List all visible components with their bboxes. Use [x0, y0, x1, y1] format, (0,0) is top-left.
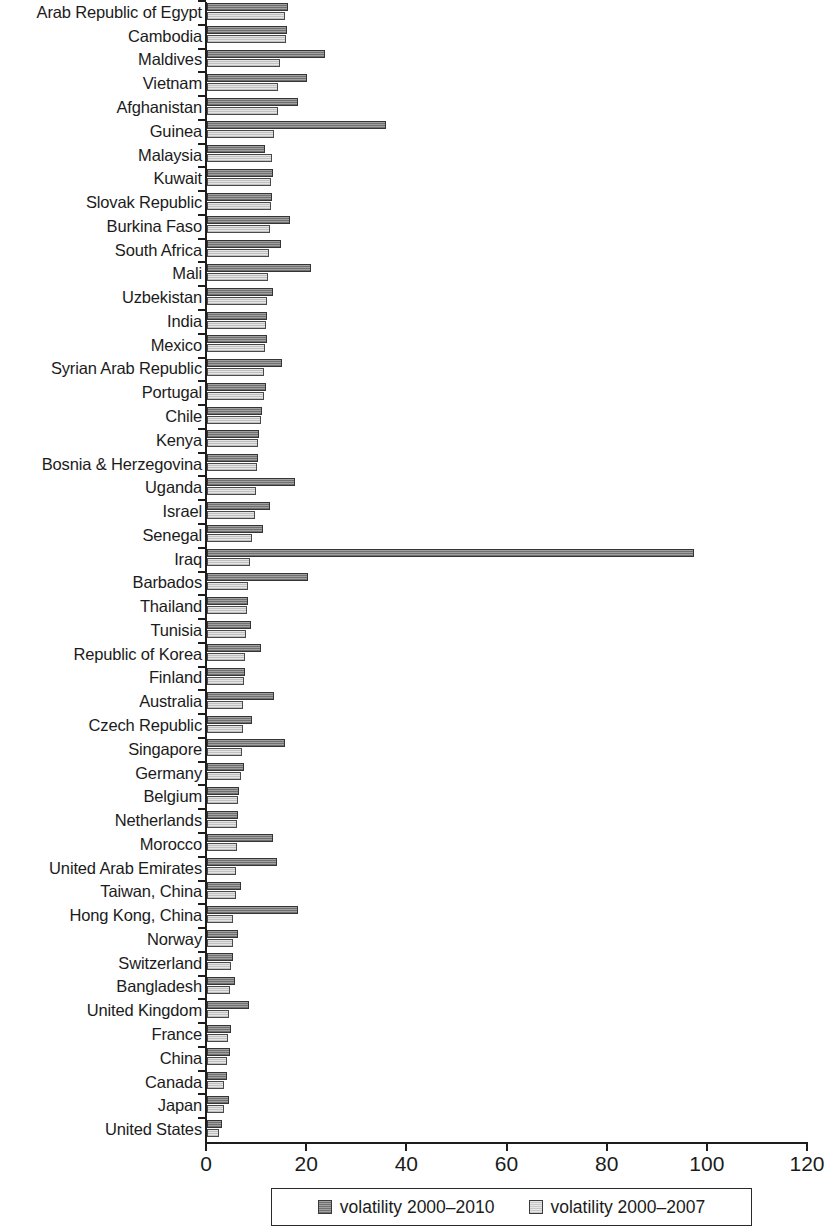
y-axis-tick — [198, 309, 206, 311]
bar-group — [207, 383, 817, 403]
legend-item-volatility-2000-2007[interactable]: volatility 2000–2007 — [529, 1198, 706, 1216]
bar-volatility-2000-2010 — [207, 121, 386, 129]
category-label: Malaysia — [138, 147, 202, 164]
bar-volatility-2000-2010 — [207, 264, 311, 272]
bar-volatility-2000-2010 — [207, 312, 267, 320]
x-axis-tick — [305, 1142, 307, 1151]
table-row: Burkina Faso — [0, 215, 821, 239]
category-label: Canada — [145, 1074, 202, 1091]
y-axis-tick — [198, 214, 206, 216]
bar-volatility-2000-2010 — [207, 3, 288, 11]
bar-group — [207, 1120, 817, 1140]
y-axis-tick — [198, 523, 206, 525]
bar-group — [207, 811, 817, 831]
bar-group — [207, 739, 817, 759]
bar-volatility-2000-2010 — [207, 858, 277, 866]
legend-item-volatility-2000-2010[interactable]: volatility 2000–2010 — [318, 1198, 495, 1216]
y-axis-tick — [198, 666, 206, 668]
bar-group — [207, 1001, 817, 1021]
table-row: United States — [0, 1118, 821, 1142]
bar-volatility-2000-2007 — [207, 130, 274, 138]
bar-volatility-2000-2010 — [207, 573, 308, 581]
table-row: Belgium — [0, 785, 821, 809]
bar-volatility-2000-2007 — [207, 83, 278, 91]
category-label: Israel — [163, 503, 202, 520]
category-label: Netherlands — [115, 812, 202, 829]
category-label: United States — [105, 1121, 202, 1138]
category-label: Japan — [158, 1097, 202, 1114]
legend-label: volatility 2000–2007 — [551, 1198, 706, 1216]
y-axis-tick — [198, 1022, 206, 1024]
y-axis-tick — [198, 1093, 206, 1095]
bar-volatility-2000-2007 — [207, 820, 237, 828]
bar-volatility-2000-2010 — [207, 811, 238, 819]
table-row: France — [0, 1023, 821, 1047]
bar-volatility-2000-2007 — [207, 701, 243, 709]
bar-group — [207, 121, 817, 141]
bar-group — [207, 407, 817, 427]
bar-volatility-2000-2010 — [207, 383, 266, 391]
bar-group — [207, 216, 817, 236]
y-axis-tick — [198, 689, 206, 691]
bar-volatility-2000-2007 — [207, 511, 255, 519]
bar-group — [207, 1048, 817, 1068]
category-label: Arab Republic of Egypt — [37, 4, 202, 21]
bar-group — [207, 1072, 817, 1092]
bar-volatility-2000-2010 — [207, 525, 263, 533]
table-row: Canada — [0, 1071, 821, 1095]
y-axis-tick — [198, 380, 206, 382]
bar-volatility-2000-2007 — [207, 939, 233, 947]
table-row: Senegal — [0, 524, 821, 548]
bar-volatility-2000-2007 — [207, 558, 250, 566]
y-axis-tick — [198, 856, 206, 858]
bar-volatility-2000-2007 — [207, 962, 231, 970]
bar-group — [207, 549, 817, 569]
bar-group — [207, 930, 817, 950]
bar-group — [207, 193, 817, 213]
category-label: India — [167, 313, 202, 330]
category-label: Guinea — [150, 123, 202, 140]
bar-group — [207, 3, 817, 23]
bar-group — [207, 312, 817, 332]
bar-volatility-2000-2010 — [207, 216, 290, 224]
bar-group — [207, 478, 817, 498]
bar-group — [207, 977, 817, 997]
category-label: Uganda — [145, 479, 202, 496]
category-label: Bangladesh — [116, 979, 202, 996]
bar-group — [207, 74, 817, 94]
bar-volatility-2000-2007 — [207, 630, 246, 638]
category-label: Tunisia — [150, 622, 202, 639]
category-label: Cambodia — [128, 28, 202, 45]
category-label: Syrian Arab Republic — [51, 361, 202, 378]
bar-volatility-2000-2007 — [207, 725, 243, 733]
y-axis-tick — [198, 428, 206, 430]
bar-volatility-2000-2007 — [207, 439, 258, 447]
bar-volatility-2000-2010 — [207, 621, 251, 629]
bar-volatility-2000-2010 — [207, 787, 239, 795]
bar-volatility-2000-2010 — [207, 454, 258, 462]
y-axis-tick — [198, 238, 206, 240]
legend-swatch-dark-icon — [318, 1200, 332, 1214]
table-row: Germany — [0, 762, 821, 786]
bar-volatility-2000-2010 — [207, 1025, 231, 1033]
category-label: France — [152, 1026, 202, 1043]
y-axis-tick — [198, 975, 206, 977]
bar-volatility-2000-2007 — [207, 1010, 229, 1018]
y-axis-tick — [198, 737, 206, 739]
bar-volatility-2000-2007 — [207, 1129, 219, 1137]
bar-volatility-2000-2007 — [207, 463, 257, 471]
y-axis-tick — [198, 880, 206, 882]
x-axis-tick-label: 40 — [395, 1153, 418, 1175]
table-row: Guinea — [0, 120, 821, 144]
y-axis-tick — [198, 547, 206, 549]
bar-volatility-2000-2010 — [207, 692, 274, 700]
bar-volatility-2000-2010 — [207, 359, 282, 367]
table-row: Republic of Korea — [0, 643, 821, 667]
table-row: Chile — [0, 405, 821, 429]
category-label: Thailand — [140, 598, 202, 615]
category-label: Switzerland — [118, 955, 202, 972]
table-row: Kenya — [0, 429, 821, 453]
bar-volatility-2000-2010 — [207, 1096, 229, 1104]
y-axis-tick — [198, 166, 206, 168]
category-label: Kenya — [156, 432, 202, 449]
